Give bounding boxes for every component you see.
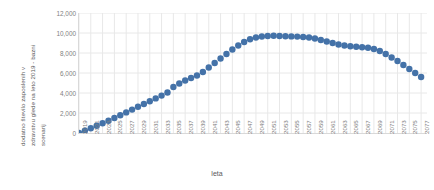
data-point xyxy=(123,109,129,115)
data-point xyxy=(306,34,312,40)
y-axis-tick-labels: 02,0004,0006,0008,00010,00012,000 xyxy=(38,0,76,150)
data-point xyxy=(147,98,153,104)
x-axis-tick-label: 2025 xyxy=(116,120,123,134)
y-axis-tick-label: 8,000 xyxy=(38,50,76,57)
x-axis-tick-label: 2039 xyxy=(199,120,206,134)
x-axis-tick-label: 2055 xyxy=(293,120,300,134)
x-axis-tick-label: 2059 xyxy=(317,120,324,134)
y-axis-tick-label: 0 xyxy=(38,130,76,137)
data-point xyxy=(194,72,200,78)
data-point xyxy=(211,60,217,66)
data-point xyxy=(394,58,400,64)
x-axis-tick-label: 2023 xyxy=(105,120,112,134)
data-point xyxy=(288,33,294,39)
x-axis-tick-label: 2049 xyxy=(258,120,265,134)
data-point xyxy=(335,41,341,47)
data-point xyxy=(241,39,247,45)
data-point xyxy=(270,33,276,39)
x-axis-tick-label: 2065 xyxy=(352,120,359,134)
data-point xyxy=(265,33,271,39)
scatter-plot xyxy=(79,13,427,133)
data-point xyxy=(200,69,206,75)
data-point xyxy=(141,101,147,107)
data-point xyxy=(176,80,182,86)
data-point xyxy=(182,77,188,83)
data-point xyxy=(135,104,141,110)
data-point xyxy=(217,55,223,61)
data-point xyxy=(170,84,176,90)
chart-container: dodatno število zaposlenih v zdravstvu g… xyxy=(0,0,434,190)
data-point xyxy=(206,64,212,70)
data-point xyxy=(235,42,241,48)
data-point xyxy=(400,62,406,68)
data-point xyxy=(406,66,412,72)
data-point xyxy=(383,51,389,57)
data-point xyxy=(341,42,347,48)
data-point xyxy=(223,51,229,57)
y-axis-tick-label: 6,000 xyxy=(38,70,76,77)
x-axis-tick-label: 2045 xyxy=(234,120,241,134)
data-point xyxy=(365,45,371,51)
data-point xyxy=(294,33,300,39)
x-axis-tick-label: 2073 xyxy=(400,120,407,134)
x-axis-tick-label: 2041 xyxy=(211,120,218,134)
y-axis-title-line-2: zdravstvu glede na leto 2019 - bazni xyxy=(29,45,37,146)
data-point xyxy=(329,40,335,46)
data-point xyxy=(253,34,259,40)
data-point xyxy=(359,44,365,50)
x-axis-tick-label: 2037 xyxy=(187,120,194,134)
data-point xyxy=(300,34,306,40)
plot-area xyxy=(78,13,427,134)
y-axis-tick-label: 4,000 xyxy=(38,90,76,97)
data-point xyxy=(276,33,282,39)
data-point xyxy=(324,38,330,44)
x-axis-tick-label: 2029 xyxy=(140,120,147,134)
x-axis-tick-label: 2057 xyxy=(305,120,312,134)
x-axis-tick-label: 2067 xyxy=(364,120,371,134)
data-point xyxy=(312,35,318,41)
y-axis-title-line-1: dodatno število zaposlenih v xyxy=(19,67,27,146)
data-point xyxy=(188,75,194,81)
x-axis-tick-label: 2061 xyxy=(329,120,336,134)
data-point xyxy=(164,89,170,95)
data-point xyxy=(117,112,123,118)
x-axis-tick-label: 2043 xyxy=(223,120,230,134)
data-point xyxy=(318,37,324,43)
data-point xyxy=(388,54,394,60)
x-axis-tick-label: 2031 xyxy=(152,120,159,134)
data-point xyxy=(158,92,164,98)
data-point xyxy=(377,48,383,54)
data-point xyxy=(371,46,377,52)
x-axis-tick-label: 2053 xyxy=(282,120,289,134)
x-axis-tick-labels: 2019202120232025202720292031203320352037… xyxy=(78,134,430,168)
data-point xyxy=(247,36,253,42)
data-point xyxy=(412,70,418,76)
data-point xyxy=(229,46,235,52)
x-axis-tick-label: 2019 xyxy=(81,120,88,134)
y-axis-tick-label: 12,000 xyxy=(38,10,76,17)
x-axis-tick-label: 2047 xyxy=(246,120,253,134)
y-axis-tick-label: 10,000 xyxy=(38,30,76,37)
x-axis-tick-label: 2035 xyxy=(175,120,182,134)
x-axis-tick-label: 2027 xyxy=(128,120,135,134)
x-axis-tick-label: 2063 xyxy=(341,120,348,134)
y-axis-tick-label: 2,000 xyxy=(38,110,76,117)
x-axis-tick-label: 2069 xyxy=(376,120,383,134)
data-point xyxy=(152,95,158,101)
x-axis-tick-label: 2071 xyxy=(388,120,395,134)
data-point xyxy=(347,43,353,49)
x-axis-tick-label: 2075 xyxy=(411,120,418,134)
data-point xyxy=(418,74,424,80)
x-axis-tick-label: 2051 xyxy=(270,120,277,134)
data-point xyxy=(259,33,265,39)
data-point xyxy=(282,33,288,39)
data-point xyxy=(353,44,359,50)
x-axis-tick-label: 2033 xyxy=(164,120,171,134)
data-point xyxy=(129,106,135,112)
x-axis-title: leta xyxy=(0,170,434,177)
x-axis-tick-label: 2021 xyxy=(93,120,100,134)
x-axis-tick-label: 2077 xyxy=(423,120,430,134)
